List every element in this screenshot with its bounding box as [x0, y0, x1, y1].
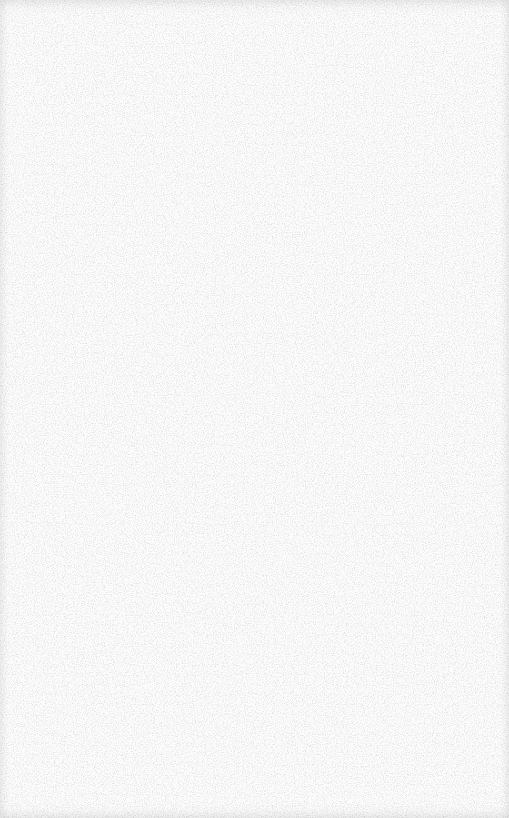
blank-canvas [0, 0, 509, 818]
paper-noise-texture [0, 0, 509, 818]
